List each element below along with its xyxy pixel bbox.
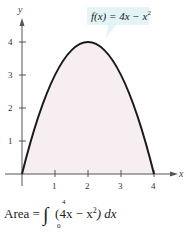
y-axis-label: y [17, 4, 23, 15]
y-tick-label-1: 1 [8, 136, 13, 146]
x-tick-label-2: 2 [85, 181, 90, 191]
lower-limit: 0 [57, 222, 61, 230]
function-label: f(x) = 4x − x2 [91, 9, 151, 22]
area-equation: Area = ∫ 4 0 (4x − x2) dx [4, 200, 117, 223]
integrand-suffix: ) dx [97, 206, 117, 221]
y-tick-label-2: 2 [8, 103, 13, 113]
integral-sign-icon: ∫ [43, 203, 48, 225]
parabola-chart: y x 4 3 2 1 1 2 3 4 [0, 0, 186, 200]
function-text: f(x) = 4x − x [91, 10, 147, 22]
integrand-text: (4x − x [55, 206, 93, 221]
y-axis-arrow-icon [20, 18, 25, 26]
x-axis-label: x [178, 168, 184, 179]
y-tick-label-4: 4 [8, 37, 13, 47]
x-tick-label-1: 1 [52, 181, 57, 191]
integrand: (4x − x2) dx [52, 206, 117, 221]
function-exponent: 2 [147, 9, 151, 17]
x-tick-label-4: 4 [151, 181, 156, 191]
x-tick-label-3: 3 [118, 181, 123, 191]
upper-limit: 4 [62, 198, 66, 206]
x-axis-arrow-icon [170, 172, 178, 177]
area-prefix: Area = [4, 206, 43, 221]
label-pointer [106, 25, 116, 38]
y-tick-label-3: 3 [8, 70, 13, 80]
